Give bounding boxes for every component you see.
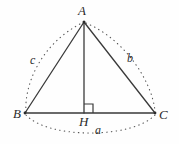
segment-AC (84, 22, 155, 113)
triangle-diagram-svg (0, 0, 179, 144)
vertex-dot-A (83, 21, 86, 24)
vertex-dot-B (24, 112, 27, 115)
geometry-figure: A B C H a b c (0, 0, 179, 144)
arc-a-dotted (26, 115, 155, 133)
vertex-label-b: B (13, 107, 21, 120)
vertex-label-h: H (79, 115, 88, 128)
side-label-c: c (30, 54, 35, 66)
right-angle-marker (84, 104, 93, 113)
segment-AB (25, 22, 84, 113)
vertex-dot-C (154, 112, 157, 115)
arc-b-dotted (86, 23, 155, 111)
vertex-label-c: C (159, 108, 168, 121)
side-label-a: a (95, 124, 101, 136)
vertex-label-a: A (78, 4, 86, 17)
side-label-b: b (127, 52, 133, 64)
